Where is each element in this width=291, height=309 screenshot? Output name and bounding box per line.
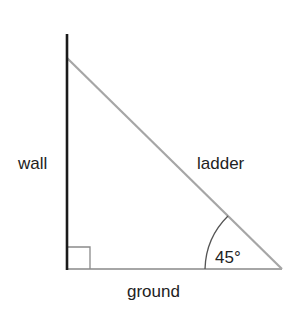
ladder-label: ladder	[197, 154, 245, 173]
ladder-line	[67, 58, 282, 269]
wall-label: wall	[17, 154, 47, 173]
angle-label: 45°	[215, 248, 241, 267]
ground-label: ground	[127, 282, 180, 301]
ladder-diagram: wall ladder ground 45°	[0, 0, 291, 309]
right-angle-marker	[67, 247, 90, 269]
